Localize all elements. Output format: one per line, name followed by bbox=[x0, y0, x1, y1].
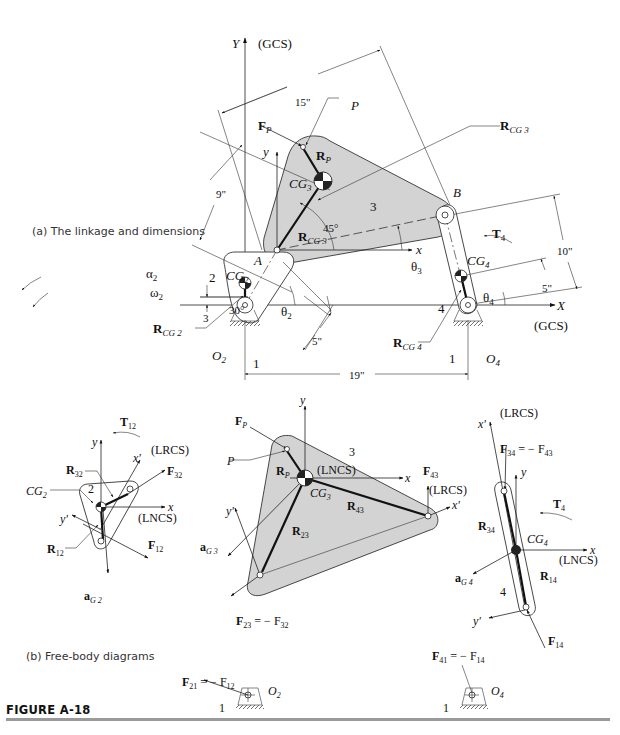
point-p-label: P bbox=[350, 98, 359, 113]
fbd3-point-p bbox=[285, 447, 290, 452]
fbd2-xprime-axis bbox=[100, 460, 140, 530]
fbd4-cg4-label: CG4 bbox=[527, 532, 548, 548]
f14-force-arrow bbox=[527, 610, 545, 648]
theta2-arc bbox=[290, 286, 295, 305]
dim-15-line bbox=[318, 50, 380, 74]
omega2-arrow bbox=[33, 293, 48, 307]
fbd4-yprime: y' bbox=[472, 614, 481, 628]
cg2-leader bbox=[50, 490, 93, 503]
dim-ext bbox=[445, 194, 560, 216]
fbd-link-2: T12 (LRCS) (LNCS) R32 F32 R12 F12 CG2 aG… bbox=[26, 415, 189, 605]
fbd4-y: y bbox=[520, 465, 527, 479]
figure-rule bbox=[6, 718, 610, 721]
fbd4-pin-b bbox=[501, 488, 507, 494]
fbd3-fp-label: FP bbox=[235, 414, 247, 430]
f41-force-line bbox=[462, 665, 472, 693]
f34-label: F34 = − F43 bbox=[500, 442, 553, 458]
fbd3-yprime: y' bbox=[225, 504, 234, 518]
f14-label: F14 bbox=[548, 634, 563, 650]
dim-5-arrow bbox=[320, 313, 331, 328]
theta3-label: θ3 bbox=[411, 259, 422, 276]
fbd4-x: x bbox=[589, 543, 596, 557]
dim-5-arrow bbox=[541, 259, 545, 270]
r12-leader bbox=[65, 525, 98, 548]
fbd3-lrcs: (LRCS) bbox=[429, 483, 467, 497]
dim-5-rocker: 5" bbox=[542, 282, 552, 294]
fbd2-x: x bbox=[167, 500, 174, 514]
fp-label: FP bbox=[258, 118, 272, 135]
fbd2-cg2-label: CG2 bbox=[26, 484, 47, 500]
fbd-o2-label: O2 bbox=[268, 684, 281, 700]
theta2-label: θ2 bbox=[281, 304, 292, 321]
r14-label: R14 bbox=[540, 569, 557, 585]
fbd4-cg-symbol bbox=[511, 545, 521, 555]
r14-vector bbox=[516, 550, 526, 606]
dim-5-crank: 5" bbox=[312, 335, 322, 347]
fbd2-link-num: 2 bbox=[88, 482, 94, 496]
f32-label: F32 bbox=[167, 464, 182, 480]
fbd2-lrcs: (LRCS) bbox=[151, 443, 189, 457]
omega2-label: ω2 bbox=[150, 285, 163, 302]
cg4-label: CG4 bbox=[467, 253, 490, 270]
fbd3-x: x bbox=[404, 471, 411, 485]
fbd-coupler-shape bbox=[247, 435, 438, 595]
theta4-arc bbox=[503, 292, 505, 305]
ext-line bbox=[304, 296, 330, 316]
part-a-caption: (a) The linkage and dimensions bbox=[32, 225, 205, 238]
cg3-symbol bbox=[314, 172, 332, 190]
ext-line bbox=[327, 296, 331, 313]
fbd3-link-num: 3 bbox=[349, 445, 355, 459]
cg4-symbol bbox=[455, 270, 467, 282]
r34-label: R34 bbox=[478, 519, 495, 535]
fbd-ground-num-right: 1 bbox=[443, 701, 449, 715]
dim-9-arrow bbox=[210, 145, 242, 180]
local-x-label: x bbox=[415, 242, 422, 257]
part-b-caption: (b) Free-body diagrams bbox=[26, 650, 155, 663]
rcg3-label-top: RCG 3 bbox=[500, 118, 529, 135]
ground-1-left: 1 bbox=[253, 356, 260, 371]
fbd4-link-num: 4 bbox=[500, 585, 506, 599]
gcs-label-right: (GCS) bbox=[534, 318, 568, 333]
fbd-link-4: (LRCS) F34 = − F43 T4 R34 CG4 (LNCS) R14… bbox=[455, 406, 598, 650]
fbd2-cg-symbol bbox=[96, 502, 106, 512]
o4-label: O4 bbox=[486, 351, 500, 368]
fbd2-pin-o2 bbox=[98, 538, 104, 544]
f21-label: F21 = − F12 bbox=[182, 675, 235, 691]
t4-label: T4 bbox=[492, 226, 506, 243]
pin-a bbox=[274, 247, 280, 253]
dim-15-arrow bbox=[222, 87, 287, 113]
dim-15: 15" bbox=[295, 96, 311, 108]
linkage-figure: Y (GCS) X (GCS) 15" 9" 5" 19" 10" 5" 3 3… bbox=[0, 0, 620, 735]
dim-ext-line bbox=[218, 110, 262, 250]
fbd3-xprime: x' bbox=[451, 498, 460, 512]
ag3-label: aG 3 bbox=[200, 540, 218, 556]
dim-3: 3 bbox=[203, 312, 209, 324]
fbd-ground-num-left: 1 bbox=[219, 701, 225, 715]
fbd-link-3: FP P RP (LNCS) CG3 R43 R23 F43 (LRCS) aG… bbox=[200, 393, 467, 630]
alpha2-arrow bbox=[22, 277, 41, 290]
link-2-label: 2 bbox=[209, 270, 216, 285]
f32-force-arrow bbox=[128, 470, 165, 494]
o2-label: O2 bbox=[212, 348, 226, 365]
fbd2-pin-a bbox=[127, 486, 133, 492]
f12-label: F12 bbox=[148, 538, 163, 554]
local-y-label: y bbox=[261, 144, 269, 159]
fbd4-xprime: x' bbox=[477, 417, 486, 431]
r32-label: R32 bbox=[66, 463, 83, 479]
fbd4-t4-label: T4 bbox=[553, 497, 565, 513]
rcg4-leader bbox=[418, 290, 461, 342]
rcg2-label: RCG 2 bbox=[153, 321, 182, 338]
f12-force-arrow bbox=[83, 524, 148, 558]
fbd3-p-label: P bbox=[226, 454, 235, 468]
gcs-label-top: (GCS) bbox=[258, 36, 292, 51]
part-a-linkage: Y (GCS) X (GCS) 15" 9" 5" 19" 10" 5" 3 3… bbox=[22, 36, 582, 381]
global-x-label: X bbox=[556, 298, 566, 313]
dim-10-arrow bbox=[568, 262, 577, 289]
fbd3-y: y bbox=[299, 393, 306, 407]
link-4-label: 4 bbox=[438, 301, 445, 316]
fbd4-lrcs: (LRCS) bbox=[500, 406, 538, 420]
coupler-link-3 bbox=[264, 136, 456, 264]
fbd3-pin-a bbox=[257, 572, 263, 578]
angle-30: 30° bbox=[229, 304, 244, 316]
angle-45: 45° bbox=[323, 222, 338, 234]
